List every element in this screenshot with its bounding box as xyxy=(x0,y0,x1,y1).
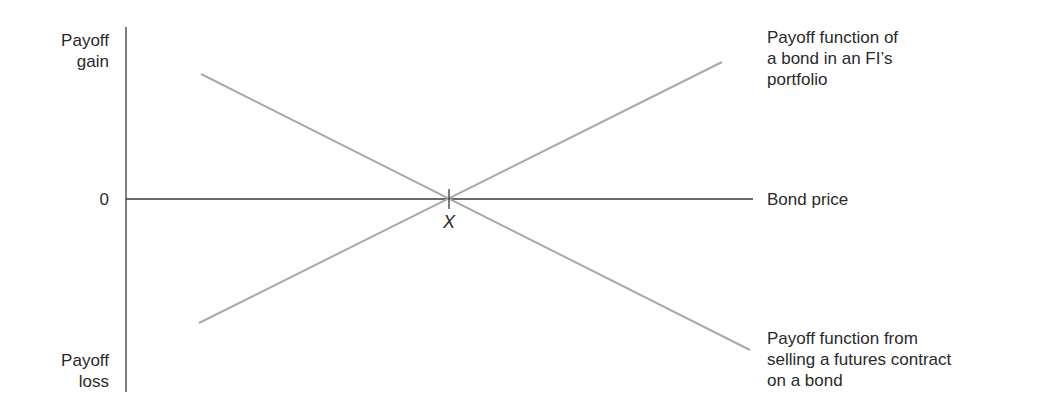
futures-label-line-1: Payoff function from xyxy=(767,328,951,349)
x-axis-label: Bond price xyxy=(767,189,848,210)
futures-label-line-3: on a bond xyxy=(767,370,951,391)
y-loss-line-2: loss xyxy=(61,371,109,392)
origin-label: 0 xyxy=(100,189,109,210)
y-loss-line-1: Payoff xyxy=(61,350,109,371)
bond-label-line-3: portfolio xyxy=(767,69,898,90)
y-axis-loss-label: Payoff loss xyxy=(61,350,109,392)
futures-label-line-2: selling a futures contract xyxy=(767,349,951,370)
y-gain-line-2: gain xyxy=(61,51,109,72)
y-gain-line-1: Payoff xyxy=(61,30,109,51)
short-futures-payoff-line xyxy=(201,74,750,350)
bond-portfolio-label: Payoff function of a bond in an FI’s por… xyxy=(767,27,898,90)
bond-portfolio-payoff-line xyxy=(199,62,722,323)
bond-label-line-1: Payoff function of xyxy=(767,27,898,48)
y-axis-gain-label: Payoff gain xyxy=(61,30,109,72)
short-futures-label: Payoff function from selling a futures c… xyxy=(767,328,951,391)
bond-label-line-2: a bond in an FI’s xyxy=(767,48,898,69)
intersection-label: X xyxy=(443,212,455,233)
